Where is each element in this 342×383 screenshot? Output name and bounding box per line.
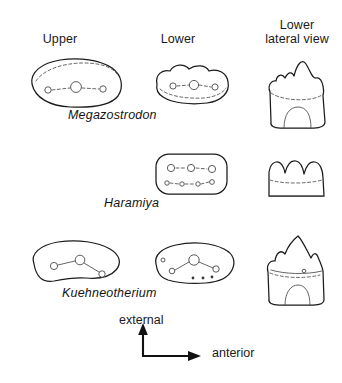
tooth-morphology-figure: Upper Lower Lower lateral view Megazostr…: [0, 0, 342, 383]
kuehneotherium-upper-tooth-diagram: [24, 234, 128, 292]
haramiya-lower-lateral-diagram: [262, 150, 332, 202]
taxon-label-haramiya: Haramiya: [104, 196, 159, 210]
kuehneotherium-lower-lateral-diagram: [262, 232, 336, 306]
column-header-lower-lateral-view: Lower lateral view: [252, 19, 342, 46]
axis-label-external: external: [119, 313, 163, 327]
haramiya-lower-tooth-diagram: [152, 150, 232, 198]
kuehneotherium-lower-tooth-diagram: [148, 236, 240, 292]
megazostrodon-lower-lateral-diagram: [262, 52, 332, 130]
column-header-lower: Lower: [140, 33, 216, 47]
taxon-label-kuehneotherium: Kuehneotherium: [62, 286, 157, 300]
taxon-label-megazostrodon: Megazostrodon: [68, 108, 157, 122]
megazostrodon-upper-tooth-diagram: [24, 54, 128, 110]
column-header-upper: Upper: [18, 33, 102, 47]
megazostrodon-lower-tooth-diagram: [152, 62, 234, 106]
axis-label-anterior: anterior: [212, 346, 254, 360]
anterior-arrow-head: [188, 351, 201, 361]
